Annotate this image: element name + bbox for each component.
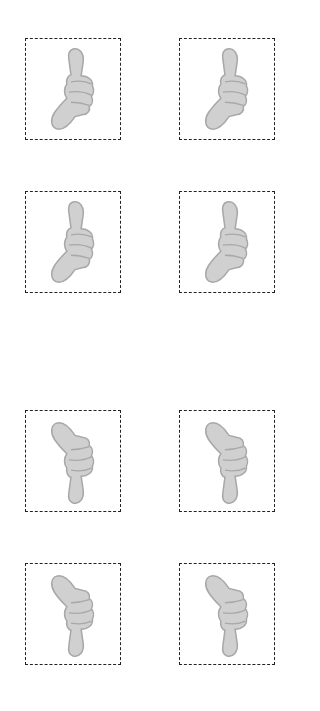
- thumbs-up-icon: [44, 198, 104, 288]
- thumbs-up-icon: [44, 45, 104, 135]
- thumbs-down-icon: [198, 570, 258, 660]
- thumbs-up-card[interactable]: [25, 191, 121, 293]
- thumbs-up-card[interactable]: [179, 191, 275, 293]
- thumbs-down-icon: [44, 417, 104, 507]
- thumbs-down-card[interactable]: [25, 563, 121, 665]
- thumbs-up-icon: [198, 45, 258, 135]
- thumbs-down-card[interactable]: [179, 410, 275, 512]
- thumbs-up-card[interactable]: [25, 38, 121, 140]
- thumbs-up-icon: [198, 198, 258, 288]
- thumbs-up-card[interactable]: [179, 38, 275, 140]
- thumbs-down-icon: [44, 570, 104, 660]
- thumbs-down-icon: [198, 417, 258, 507]
- thumbs-down-card[interactable]: [25, 410, 121, 512]
- thumbs-down-card[interactable]: [179, 563, 275, 665]
